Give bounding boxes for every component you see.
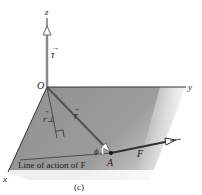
force-arrow-overline-icon: →: [137, 142, 144, 150]
z-axis-label: z: [44, 7, 49, 17]
torque-arrow-overline-icon: →: [51, 43, 59, 52]
torque-arrowhead-icon: [43, 26, 51, 35]
r-perp-label: r⊥: [43, 114, 55, 124]
diagram-canvas: z y x O τ → r⊥ → r → ϕ A F → Line of act…: [0, 0, 202, 195]
phi-label: ϕ: [94, 146, 99, 156]
r-arrow-overline-icon: →: [73, 105, 80, 113]
point-a-label: A: [106, 157, 114, 168]
figure-caption: (c): [74, 182, 84, 192]
torque-diagram: z y x O τ → r⊥ → r → ϕ A F → Line of act…: [0, 0, 202, 195]
x-axis-label: x: [2, 174, 7, 184]
origin-label: O: [37, 80, 44, 91]
line-of-action-label: Line of action of F: [18, 160, 85, 170]
point-a: [109, 151, 113, 155]
y-axis-label: y: [187, 82, 192, 92]
r-perp-arrow-overline-icon: →: [43, 107, 50, 115]
